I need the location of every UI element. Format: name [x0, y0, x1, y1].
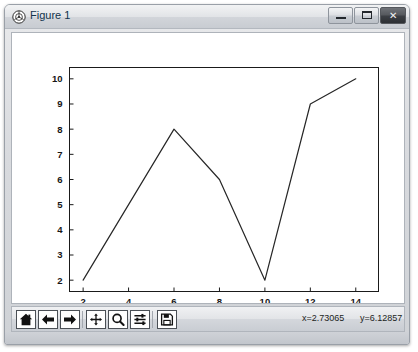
svg-text:4: 4 [57, 224, 63, 235]
figure-canvas[interactable]: 2468101214 2345678910 [11, 32, 405, 304]
svg-text:10: 10 [52, 73, 63, 84]
svg-text:8: 8 [57, 124, 62, 135]
home-button[interactable] [16, 310, 36, 329]
svg-text:6: 6 [57, 174, 62, 185]
forward-button[interactable] [60, 310, 80, 329]
svg-text:9: 9 [57, 98, 62, 109]
minimize-icon [336, 17, 346, 19]
svg-text:3: 3 [57, 249, 62, 260]
toolbar-separator-2 [152, 311, 153, 328]
svg-text:5: 5 [57, 199, 63, 210]
maximize-button[interactable] [354, 7, 379, 24]
svg-text:7: 7 [57, 149, 62, 160]
move-icon [87, 313, 105, 326]
floppy-disk-icon [158, 313, 176, 326]
svg-text:2: 2 [57, 275, 62, 286]
svg-text:2: 2 [80, 296, 85, 304]
window-bottom-strip [5, 332, 409, 344]
cursor-y-coordinate: y=6.12857 [360, 313, 402, 323]
cursor-x-coordinate: x=2.73065 [302, 313, 344, 323]
save-button[interactable] [157, 310, 177, 329]
svg-text:14: 14 [350, 296, 361, 304]
toolbar-separator-1 [82, 311, 83, 328]
sliders-icon [131, 313, 149, 326]
home-icon [17, 313, 35, 326]
svg-text:12: 12 [305, 296, 316, 304]
zoom-button[interactable] [108, 310, 128, 329]
minimize-button[interactable] [328, 7, 353, 24]
back-button[interactable] [38, 310, 58, 329]
plot-svg: 2468101214 2345678910 [12, 33, 404, 303]
figure-window: Figure 1 ✕ 2468101214 2345678910 [4, 4, 410, 345]
svg-text:10: 10 [260, 296, 271, 304]
svg-text:6: 6 [171, 296, 176, 304]
configure-subplots-button[interactable] [130, 310, 150, 329]
canvas-background [12, 33, 404, 303]
svg-text:4: 4 [126, 296, 132, 304]
maximize-icon [362, 11, 372, 19]
svg-text:8: 8 [217, 296, 222, 304]
arrow-left-icon [39, 313, 57, 326]
arrow-right-icon [61, 313, 79, 326]
navigation-toolbar: x=2.73065 y=6.12857 [11, 306, 405, 332]
window-title: Figure 1 [30, 9, 70, 21]
close-icon: ✕ [381, 8, 405, 23]
close-button[interactable]: ✕ [380, 7, 406, 24]
magnifier-icon [109, 313, 127, 326]
matplotlib-logo-icon [12, 10, 26, 24]
window-titlebar[interactable]: Figure 1 ✕ [5, 5, 409, 29]
pan-button[interactable] [86, 310, 106, 329]
